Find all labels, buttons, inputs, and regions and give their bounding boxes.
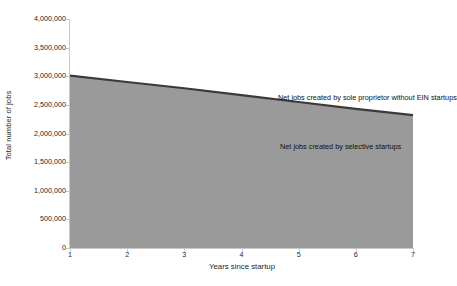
y-tick-label: 500,000 [16, 215, 66, 223]
x-tick-mark [299, 249, 300, 252]
y-tick-mark [66, 76, 69, 77]
y-tick-mark [66, 48, 69, 49]
y-tick-label: 4,000,000 [16, 15, 66, 23]
y-tick-mark [66, 134, 69, 135]
x-tick-mark [70, 249, 71, 252]
y-tick-mark [66, 19, 69, 20]
y-tick-label: 1,000,000 [16, 187, 66, 195]
y-tick-label: 2,500,000 [16, 101, 66, 109]
series-plot-svg [70, 19, 413, 248]
y-tick-label: 2,000,000 [16, 130, 66, 138]
y-tick-label: 3,000,000 [16, 72, 66, 80]
x-tick-mark [413, 249, 414, 252]
x-axis-title: Years since startup [70, 262, 414, 271]
x-tick-mark [242, 249, 243, 252]
y-tick-mark [66, 248, 69, 249]
y-tick-label: 1,500,000 [16, 158, 66, 166]
x-tick-mark [184, 249, 185, 252]
x-tick-mark [127, 249, 128, 252]
y-axis-tick-labels: 0500,0001,000,0001,500,0002,000,0002,500… [16, 0, 66, 286]
plot-area: Net jobs created by sole proprietor with… [70, 19, 413, 248]
y-axis-title-text: Total number of jobs [5, 90, 14, 160]
y-tick-label: 3,500,000 [16, 44, 66, 52]
annotation-sole-proprietor: Net jobs created by sole proprietor with… [278, 93, 457, 102]
y-tick-mark [66, 191, 69, 192]
y-tick-mark [66, 105, 69, 106]
y-tick-mark [66, 162, 69, 163]
x-tick-mark [356, 249, 357, 252]
annotation-selective-startups: Net jobs created by selective startups [280, 142, 401, 151]
y-tick-mark [66, 219, 69, 220]
